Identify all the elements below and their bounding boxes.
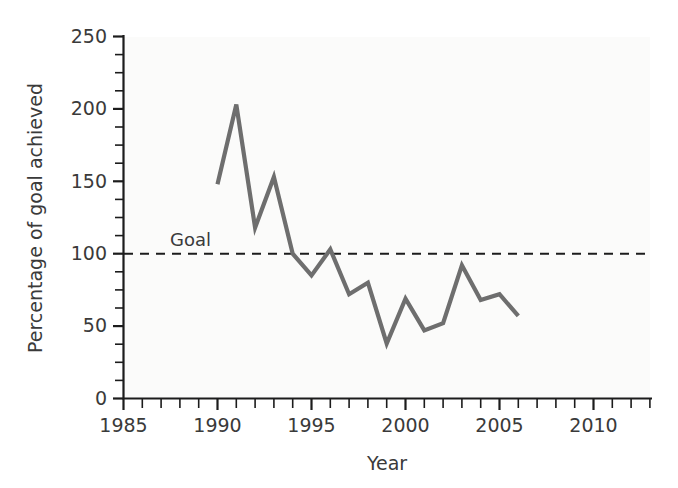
x-tick-label-1995: 1995 (287, 414, 335, 436)
x-axis-title: Year (366, 452, 407, 474)
x-tick-label-1990: 1990 (193, 414, 241, 436)
x-axis-ticks (124, 399, 650, 410)
x-tick-label-2000: 2000 (381, 414, 429, 436)
y-tick-label-50: 50 (83, 314, 107, 336)
chart-figure: 0 50 100 150 200 250 (0, 0, 678, 488)
y-axis-title: Percentage of goal achieved (24, 83, 46, 353)
x-tick-label-2005: 2005 (475, 414, 523, 436)
y-tick-label-200: 200 (71, 97, 107, 119)
y-tick-label-0: 0 (95, 387, 107, 409)
y-axis-ticks (113, 37, 124, 399)
goal-line-label: Goal (170, 229, 211, 250)
line-chart: 0 50 100 150 200 250 (0, 0, 678, 488)
y-tick-label-100: 100 (71, 242, 107, 264)
y-tick-label-150: 150 (71, 170, 107, 192)
y-tick-label-250: 250 (71, 25, 107, 47)
x-tick-label-2010: 2010 (569, 414, 617, 436)
x-tick-label-1985: 1985 (99, 414, 147, 436)
